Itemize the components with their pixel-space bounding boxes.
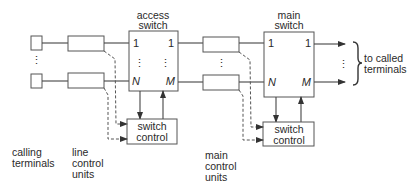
main-control-units-label-3: units — [205, 171, 227, 183]
access-out-dots: ⋮ — [160, 57, 171, 69]
calling-terminals-label-2: terminals — [12, 157, 55, 169]
output-ellipsis: ⋮ — [338, 58, 349, 70]
main-in-n: N — [268, 76, 276, 88]
calling-terminal-1 — [31, 36, 42, 50]
mcu-ellipsis: ⋮ — [216, 57, 227, 69]
access-out-m: M — [166, 75, 176, 87]
main-control-unit-n — [203, 75, 239, 90]
to-called-label-2: terminals — [364, 63, 407, 75]
access-switch-label-2: switch — [138, 19, 167, 31]
switching-diagram: ⋮ access switch 1 ⋮ N 1 ⋮ M switch contr… — [0, 0, 414, 191]
main-out-m: M — [302, 76, 312, 88]
calling-terminal-n — [31, 74, 42, 88]
switch-control-1-line2: control — [136, 131, 168, 143]
switch-control-2-line2: control — [273, 134, 305, 146]
main-out-1: 1 — [305, 37, 311, 49]
main-control-unit-1 — [203, 37, 239, 52]
access-in-dots: ⋮ — [134, 57, 145, 69]
line-control-units-label-3: units — [72, 168, 94, 180]
main-switch-label-2: switch — [274, 19, 303, 31]
line-control-unit-1 — [68, 36, 104, 51]
line-control-unit-n — [68, 73, 104, 88]
access-out-1: 1 — [168, 37, 174, 49]
access-in-1: 1 — [133, 37, 139, 49]
main-in-1: 1 — [268, 37, 274, 49]
access-in-n: N — [132, 75, 140, 87]
terminal-ellipsis: ⋮ — [31, 54, 42, 66]
brace-icon — [353, 42, 362, 85]
